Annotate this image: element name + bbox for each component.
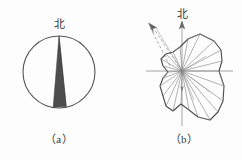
figure-container: 北 （a） 北 [0,0,242,160]
panel-a-wedge [53,36,66,107]
panel-b-caption: （b） [170,133,199,145]
figure-canvas: 北 （a） 北 [0,0,242,160]
panel-b: 北 [146,8,233,145]
panel-a: 北 （a） [23,18,95,145]
panel-b-polygon-outline [160,34,224,120]
panel-b-north-label: 北 [177,8,188,21]
panel-a-caption: （a） [45,133,73,145]
panel-b-pointer-arrow-icon [149,23,157,32]
panel-a-north-label: 北 [54,18,65,31]
panel-b-radial-spokes [160,34,224,120]
